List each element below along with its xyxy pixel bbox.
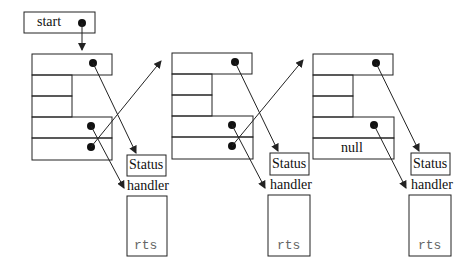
- start-label: start: [37, 15, 61, 29]
- next-frame-arrow: [91, 61, 161, 147]
- frame-2: [172, 53, 310, 256]
- status-arrow: [235, 62, 278, 151]
- linked-frames-diagram: [0, 0, 473, 270]
- status-label: Status: [272, 157, 306, 171]
- status-label: Status: [129, 158, 163, 172]
- handler-label: handler: [411, 178, 453, 192]
- frame-3: [313, 54, 451, 256]
- handler-arrow: [91, 126, 124, 188]
- rts-label: rts: [418, 239, 441, 252]
- handler-arrow: [374, 125, 406, 188]
- frame-1: [32, 54, 167, 256]
- status-arrow: [93, 63, 136, 153]
- null-slot-label: null: [341, 141, 363, 155]
- rts-label: rts: [134, 239, 157, 252]
- handler-arrow: [232, 125, 265, 188]
- next-frame-arrow: [232, 60, 303, 146]
- handler-label: handler: [127, 179, 169, 193]
- status-label: Status: [413, 157, 447, 171]
- rts-label: rts: [277, 239, 300, 252]
- handler-label: handler: [270, 178, 312, 192]
